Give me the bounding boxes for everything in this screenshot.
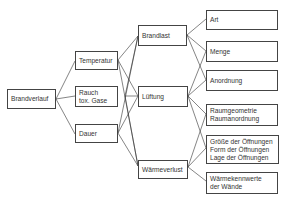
node-lueftung: Lüftung <box>138 86 188 107</box>
node-temperatur: Temperatur <box>75 51 118 70</box>
node-label: tox. Gase <box>79 97 114 105</box>
node-waermekennwerte: Wärmekennwerte der Wände <box>206 172 278 194</box>
node-label: Form der Öffnungen <box>210 146 275 154</box>
node-label: Wärmekennwerte <box>210 175 274 183</box>
node-rauch: Rauch tox. Gase <box>75 86 118 107</box>
node-label: der Wände <box>210 183 274 191</box>
node-label: Art <box>210 16 274 24</box>
node-brandlast: Brandlast <box>138 25 187 46</box>
node-label: Wärmeverlust <box>142 166 184 174</box>
node-raumgeometrie: Raumgeometrie Raumanordnung <box>206 104 278 126</box>
node-label: Rauch <box>79 89 114 97</box>
node-anordnung: Anordnung <box>206 70 278 91</box>
node-dauer: Dauer <box>75 124 118 143</box>
node-label: Raumgeometrie <box>210 107 274 115</box>
node-label: Dauer <box>79 130 114 138</box>
node-label: Anordnung <box>210 77 274 85</box>
node-label: Brandlast <box>142 32 183 40</box>
node-label: Brandverlauf <box>11 95 52 103</box>
node-label: Temperatur <box>79 57 114 65</box>
node-label: Raumanordnung <box>210 115 274 123</box>
node-oeffnungen: Größe der Öffnungen Form der Öffnungen L… <box>206 135 279 164</box>
node-waermeverlust: Wärmeverlust <box>138 160 188 179</box>
node-label: Menge <box>210 48 274 56</box>
node-label: Lage der Öffnungen <box>210 154 275 162</box>
node-label: Lüftung <box>142 93 184 101</box>
node-art: Art <box>206 10 278 30</box>
node-menge: Menge <box>206 41 278 62</box>
node-label: Größe der Öffnungen <box>210 138 275 146</box>
node-brandverlauf: Brandverlauf <box>7 89 56 109</box>
